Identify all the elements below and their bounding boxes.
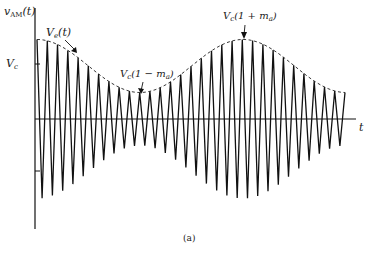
envelope-label-main: V (46, 26, 54, 39)
envelope-arrowhead-icon (71, 47, 77, 53)
maximum-label-close: ) (273, 10, 277, 21)
vc-tick-label: Vc (6, 58, 18, 69)
minimum-label-close: ) (170, 68, 174, 79)
minimum-label-rest: (1 − m (131, 68, 165, 79)
maximum-label-rest: (1 + m (234, 10, 268, 21)
vc-label-sub: c (14, 63, 18, 71)
vc-label-main: V (6, 57, 14, 70)
y-axis-label-sub: AM (10, 11, 22, 19)
minimum-label-sub2: a (166, 73, 170, 81)
maximum-label-sub: c (230, 15, 234, 23)
envelope-label-rest: (t) (58, 26, 71, 39)
minimum-label: Vc(1 − ma) (120, 69, 174, 79)
maximum-arrowhead-icon (241, 32, 247, 39)
y-axis-label: vAM(t) (4, 6, 35, 17)
envelope-dashed (37, 40, 345, 93)
figure-caption: (a) (183, 234, 195, 243)
maximum-label-sub2: a (269, 15, 273, 23)
minimum-label-sub: c (127, 73, 131, 81)
am-signal-diagram (0, 0, 373, 267)
minimum-arrowhead-icon (138, 88, 144, 94)
maximum-label: Vc(1 + ma) (223, 11, 277, 21)
x-axis-label: t (359, 122, 363, 133)
envelope-label: Ve(t) (46, 27, 71, 38)
envelope-arrow (65, 40, 75, 50)
y-axis-label-arg: (t) (22, 5, 35, 18)
envelope-label-sub: e (54, 32, 58, 40)
